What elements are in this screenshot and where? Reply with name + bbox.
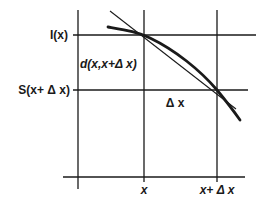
label-S-x-plus-dx: S(x+ Δ x) — [18, 83, 70, 97]
label-I-x: I(x) — [50, 28, 68, 42]
label-delta-x: Δ x — [166, 96, 185, 110]
diagram: I(x) S(x+ Δ x) d(x,x+Δ x) Δ x x x+ Δ x — [0, 0, 256, 207]
tick-label-x: x — [140, 183, 149, 197]
label-chord-distance: d(x,x+Δ x) — [80, 57, 137, 71]
tick-label-x-plus-dx: x+ Δ x — [199, 183, 236, 197]
